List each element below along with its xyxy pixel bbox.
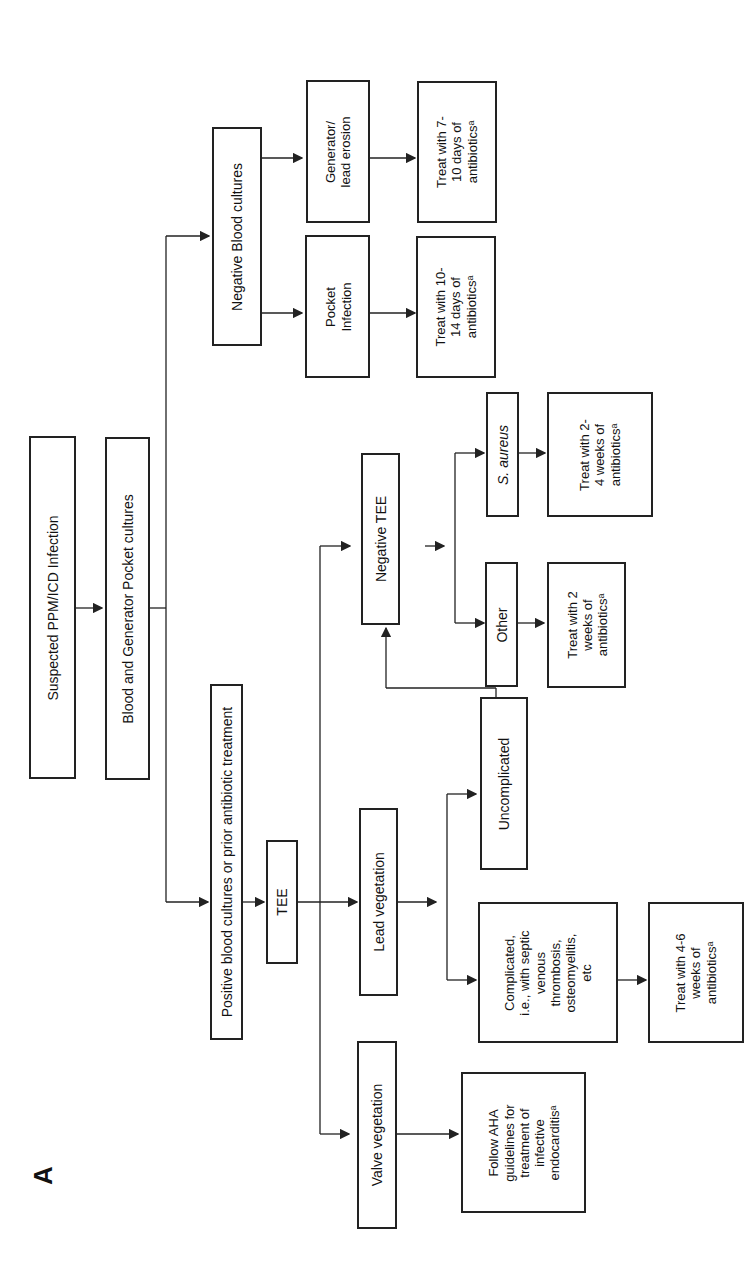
panel-label: A [28, 1166, 59, 1185]
node-complicated: Complicated, i.e., with septic venous th… [478, 902, 618, 1043]
node-lead-vegetation: Lead vegetation [359, 808, 398, 996]
node-treat-4-6-weeks: Treat with 4-6 weeks of antibioticsᵃ [648, 902, 744, 1043]
node-other: Other [485, 562, 518, 687]
node-label: Pocket Infection [307, 237, 368, 376]
node-pocket-infection: Pocket Infection [305, 235, 370, 378]
node-label: Negative Blood cultures [214, 129, 260, 344]
node-label: Treat with 7- 10 days of antibioticsᵃ [419, 83, 495, 221]
node-label: Negative TEE [363, 455, 398, 623]
node-label: Uncomplicated [482, 699, 526, 868]
node-label: Valve vegetation [359, 1043, 395, 1227]
node-generator-lead-erosion: Generator/ lead erosion [306, 80, 370, 223]
node-label: Generator/ lead erosion [308, 82, 368, 221]
node-label: Suspected PPM/ICD Infection [31, 438, 74, 777]
node-label: Treat with 4-6 weeks of antibioticsᵃ [650, 904, 742, 1041]
node-label: Treat with 2- 4 weeks of antibioticsᵃ [549, 394, 651, 515]
node-s-aureus: S. aureus [486, 392, 519, 517]
node-negative-tee: Negative TEE [361, 453, 400, 625]
node-treat-7-10-days: Treat with 7- 10 days of antibioticsᵃ [417, 81, 497, 223]
node-tee: TEE [266, 840, 298, 964]
node-positive-blood-cultures: Positive blood cultures or prior antibio… [210, 684, 243, 1040]
node-follow-aha-guidelines: Follow AHA guidelines for treatment of i… [461, 1072, 586, 1213]
node-treat-2-weeks: Treat with 2 weeks of antibioticsᵃ [547, 562, 626, 688]
node-label: Blood and Generator Pocket cultures [107, 439, 148, 778]
node-suspected-infection: Suspected PPM/ICD Infection [29, 436, 76, 779]
node-label: Lead vegetation [361, 810, 396, 994]
node-blood-pocket-cultures: Blood and Generator Pocket cultures [105, 437, 150, 780]
node-label: Treat with 10- 14 days of antibioticsᵃ [418, 238, 494, 376]
node-label: S. aureus [488, 394, 517, 515]
node-label: Positive blood cultures or prior antibio… [212, 686, 241, 1038]
node-uncomplicated: Uncomplicated [480, 697, 528, 870]
node-label: TEE [268, 842, 296, 962]
node-negative-blood-cultures: Negative Blood cultures [212, 127, 262, 346]
node-treat-2-4-weeks: Treat with 2- 4 weeks of antibioticsᵃ [547, 392, 653, 517]
node-label: Follow AHA guidelines for treatment of i… [463, 1074, 584, 1211]
node-valve-vegetation: Valve vegetation [357, 1041, 397, 1229]
node-label: Complicated, i.e., with septic venous th… [480, 904, 616, 1041]
node-treat-10-14-days: Treat with 10- 14 days of antibioticsᵃ [416, 236, 496, 378]
node-label: Other [487, 564, 516, 685]
node-label: Treat with 2 weeks of antibioticsᵃ [549, 564, 624, 686]
